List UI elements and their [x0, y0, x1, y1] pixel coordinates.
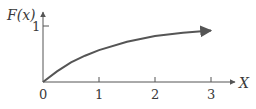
x-tick-label-2: 2 — [151, 88, 159, 101]
x-tick-label-3: 3 — [207, 88, 215, 101]
x-axis-label: X — [239, 76, 249, 90]
cdf-curve — [43, 31, 211, 83]
y-tick-label-1: 1 — [32, 20, 40, 33]
x-ticks — [99, 77, 211, 82]
x-tick-label-0: 0 — [39, 88, 47, 101]
x-tick-label-1: 1 — [95, 88, 103, 101]
